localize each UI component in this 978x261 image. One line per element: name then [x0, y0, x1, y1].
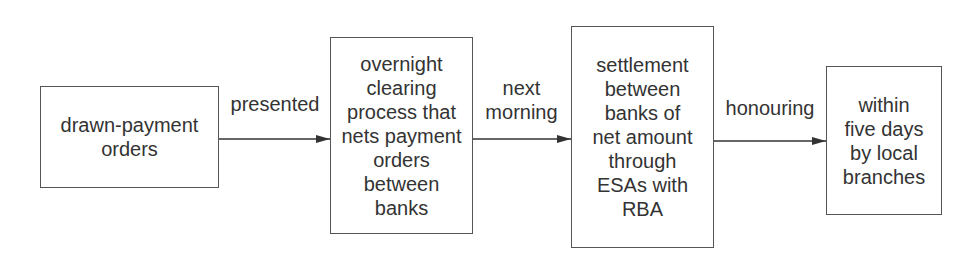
node-drawn-payment-orders: drawn-payment orders	[40, 86, 219, 188]
node-local-branches: within five days by local branches	[826, 66, 942, 215]
node-label: overnight clearing process that nets pay…	[341, 52, 461, 220]
node-label: within five days by local branches	[843, 93, 925, 189]
node-settlement: settlement between banks of net amount t…	[571, 26, 714, 248]
edge-label-honouring: honouring	[714, 96, 826, 120]
node-label: settlement between banks of net amount t…	[592, 53, 692, 221]
node-label: drawn-payment orders	[61, 113, 199, 161]
edge-label-next-morning: next morning	[472, 76, 571, 124]
node-overnight-clearing: overnight clearing process that nets pay…	[330, 37, 473, 234]
edge-label-presented: presented	[220, 92, 330, 116]
